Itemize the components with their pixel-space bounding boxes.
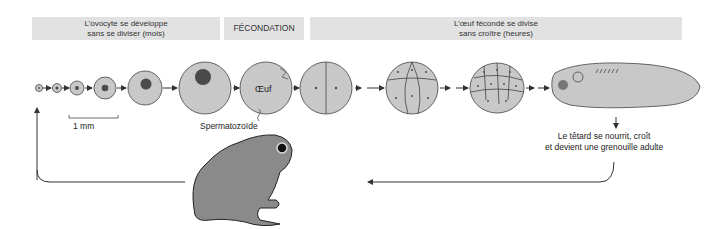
sperm-label: Spermatozoïde [200, 121, 258, 131]
caption-line: Le têtard se nourrit, croît [545, 131, 663, 142]
scale-label: 1 mm [73, 121, 94, 131]
tadpole-caption: Le têtard se nourrit, croît et devient u… [545, 131, 663, 153]
adult-frog [193, 135, 292, 226]
life-cycle-diagram [0, 0, 716, 229]
scale-bar [69, 115, 118, 118]
tadpole [552, 63, 700, 108]
egg-label: Œuf [255, 84, 272, 94]
caption-line: et devient une grenouille adulte [545, 142, 663, 153]
